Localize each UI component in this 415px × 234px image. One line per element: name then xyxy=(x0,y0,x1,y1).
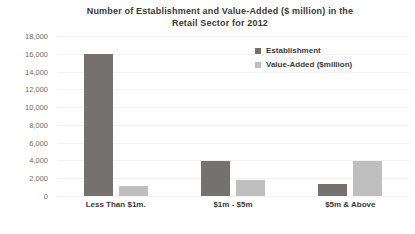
legend-label: Establishment xyxy=(266,46,321,55)
bar-chart: Number of Establishment and Value-Added … xyxy=(0,0,415,234)
chart-title-line-2: Retail Sector for 2012 xyxy=(55,17,385,29)
x-axis-label: Less Than $1m. xyxy=(57,200,174,209)
legend-swatch-icon xyxy=(255,48,261,54)
y-axis: 18,00016,00014,00012,00010,0008,0006,000… xyxy=(0,36,52,196)
legend-item[interactable]: Value-Added ($million) xyxy=(255,60,352,69)
y-axis-tick-label: 2,000 xyxy=(0,174,52,183)
bar-value-added[interactable] xyxy=(353,161,382,196)
bar-establishment[interactable] xyxy=(84,54,113,196)
y-axis-tick-label: 0 xyxy=(0,192,52,201)
y-axis-tick-label: 14,000 xyxy=(0,67,52,76)
x-axis-label: $1m - $5m xyxy=(174,200,291,209)
x-axis-labels: Less Than $1m.$1m - $5m$5m & Above xyxy=(57,200,409,209)
y-axis-tick-label: 8,000 xyxy=(0,120,52,129)
chart-title: Number of Establishment and Value-Added … xyxy=(55,5,385,29)
legend-swatch-icon xyxy=(255,62,261,68)
bar-value-added[interactable] xyxy=(119,186,148,196)
gridline xyxy=(57,196,409,197)
y-axis-tick-label: 16,000 xyxy=(0,49,52,58)
bar-value-added[interactable] xyxy=(236,180,265,196)
y-axis-tick-label: 10,000 xyxy=(0,103,52,112)
x-axis-label: $5m & Above xyxy=(292,200,409,209)
y-axis-tick-label: 4,000 xyxy=(0,156,52,165)
chart-title-line-1: Number of Establishment and Value-Added … xyxy=(55,5,385,17)
y-axis-tick-label: 12,000 xyxy=(0,85,52,94)
chart-legend: EstablishmentValue-Added ($million) xyxy=(255,46,352,74)
bar-groups xyxy=(57,36,409,196)
bar-establishment[interactable] xyxy=(201,161,230,196)
legend-item[interactable]: Establishment xyxy=(255,46,352,55)
y-axis-tick-label: 18,000 xyxy=(0,32,52,41)
bar-group xyxy=(57,36,174,196)
y-axis-tick-label: 6,000 xyxy=(0,138,52,147)
bar-establishment[interactable] xyxy=(318,184,347,196)
legend-label: Value-Added ($million) xyxy=(266,60,352,69)
